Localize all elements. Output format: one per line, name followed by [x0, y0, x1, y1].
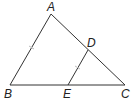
segment-ab	[10, 14, 51, 85]
label-a: A	[46, 0, 55, 14]
label-c: C	[121, 87, 130, 101]
label-d: D	[87, 36, 96, 50]
label-b: B	[4, 87, 12, 101]
triangle-diagram: A B C D E	[0, 0, 140, 101]
label-e: E	[63, 87, 72, 101]
